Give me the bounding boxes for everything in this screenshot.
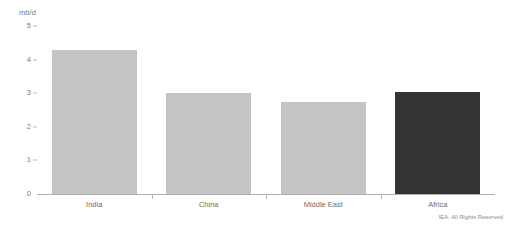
x-axis-tick-mark bbox=[152, 195, 153, 199]
bar-chart: mb/d 012345 IEA. All Rights Reserved Ind… bbox=[0, 0, 511, 237]
y-axis-tick-label: 5 bbox=[27, 22, 31, 30]
plot-area: 012345 bbox=[37, 26, 495, 194]
y-axis-tick-label: 2 bbox=[27, 123, 31, 131]
y-axis-tick-label: 0 bbox=[27, 190, 31, 198]
x-axis-category-label: Middle East bbox=[304, 201, 343, 209]
bar-india bbox=[52, 50, 137, 194]
y-axis-tick-label: 1 bbox=[27, 157, 31, 165]
y-axis-tick-mark bbox=[33, 160, 37, 161]
y-axis-tick-label: 3 bbox=[27, 89, 31, 97]
x-axis-category-label: India bbox=[86, 201, 102, 209]
bar-africa bbox=[395, 92, 480, 194]
bar-middle-east bbox=[281, 102, 366, 194]
y-axis-tick-label: 4 bbox=[27, 56, 31, 64]
y-axis-tick-mark bbox=[33, 93, 37, 94]
y-axis-tick-mark bbox=[33, 26, 37, 27]
y-axis-unit-label: mb/d bbox=[19, 8, 36, 17]
y-axis-tick-mark bbox=[33, 126, 37, 127]
x-axis-tick-mark bbox=[381, 195, 382, 199]
x-axis-category-label: Africa bbox=[428, 201, 447, 209]
x-axis-category-label: China bbox=[199, 201, 219, 209]
y-axis-tick-mark bbox=[33, 59, 37, 60]
bar-china bbox=[166, 93, 251, 194]
copyright-note: IEA. All Rights Reserved bbox=[439, 214, 503, 220]
x-axis-tick-mark bbox=[266, 195, 267, 199]
